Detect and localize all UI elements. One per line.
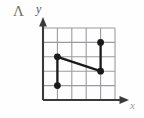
data-point bbox=[97, 68, 104, 75]
data-point bbox=[97, 39, 104, 46]
data-point bbox=[54, 53, 61, 60]
figure-container: Λ y x bbox=[0, 0, 144, 118]
x-axis-arrowhead bbox=[120, 96, 130, 104]
data-segments bbox=[57, 42, 100, 85]
y-axis-arrowhead bbox=[39, 17, 47, 27]
data-point bbox=[54, 82, 61, 89]
data-segment bbox=[57, 57, 100, 71]
coordinate-plot bbox=[0, 0, 144, 118]
